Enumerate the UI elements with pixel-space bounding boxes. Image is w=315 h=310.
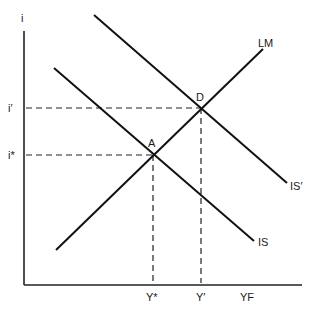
i-star-label: i* (8, 149, 15, 161)
is-lm-diagram: i i′ i* LM IS IS′ A D Y* Y′ YF (0, 0, 315, 310)
is-prime-label: IS′ (290, 180, 302, 192)
lm-curve (56, 49, 263, 250)
point-d-label: D (196, 91, 204, 103)
i-prime-label: i′ (8, 102, 13, 114)
yf-label: YF (240, 291, 254, 303)
y-axis-label: i (21, 12, 23, 24)
is-label: IS (258, 236, 268, 248)
lm-label: LM (258, 37, 273, 49)
is-curve (54, 68, 254, 241)
point-a-label: A (148, 137, 156, 149)
y-prime-label: Y′ (196, 291, 205, 303)
y-star-label: Y* (146, 291, 158, 303)
